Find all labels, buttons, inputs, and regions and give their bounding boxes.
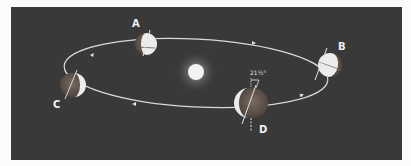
earth-position-b: [315, 48, 342, 80]
tilt-angle-marker: [256, 80, 259, 88]
position-label-b: B: [338, 42, 346, 52]
orbit-arrow-icon: [252, 41, 256, 45]
orbit-arrow-icon: [90, 53, 94, 57]
sun: [174, 50, 218, 94]
orbit-arrow-icon: [299, 92, 304, 97]
earth-position-a: [135, 30, 157, 56]
orbit-diagram: [0, 0, 411, 166]
position-label-a: A: [132, 19, 140, 29]
orbit-arrow-icon: [132, 102, 136, 106]
position-label-c: C: [53, 100, 60, 110]
tilt-angle-label: 21½°: [250, 70, 266, 76]
earth-position-c: [60, 70, 86, 99]
position-label-d: D: [259, 125, 267, 135]
